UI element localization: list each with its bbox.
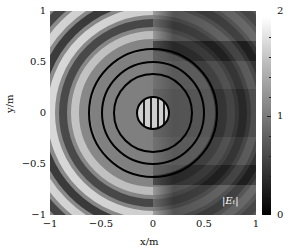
colorbar-tick-0: 0 [277, 210, 283, 220]
colorbar-tick-1: 1 [277, 111, 283, 121]
x-tick-0.5: 0.5 [189, 219, 219, 229]
x-tick-neg0.5: −0.5 [86, 219, 116, 229]
y-axis-label: y/m [4, 94, 15, 113]
y-tick-0.5: 0.5 [12, 57, 46, 67]
x-axis-label: x/m [140, 236, 159, 247]
y-tick-0: 0 [12, 108, 46, 118]
x-tick-1: 1 [241, 219, 271, 229]
heatmap-image [50, 11, 256, 215]
x-tick-neg1: −1 [35, 219, 65, 229]
heatmap-plot [50, 11, 256, 215]
y-tick-1: 1 [12, 6, 46, 16]
colorbar [262, 17, 271, 215]
field-annotation: |Eₜ| [222, 195, 239, 206]
x-tick-0: 0 [138, 219, 168, 229]
colorbar-tick-2: 2 [277, 6, 283, 16]
y-tick-neg0.5: −0.5 [12, 159, 46, 169]
